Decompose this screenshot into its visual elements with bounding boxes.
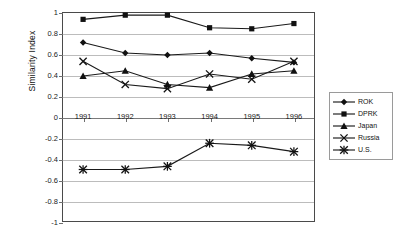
y-axis-tick-label: 0.2	[20, 92, 58, 101]
datapoint-rok-1994	[206, 50, 212, 56]
legend-glyph	[341, 111, 346, 116]
datapoint-dprk-1992	[123, 13, 128, 18]
y-axis-tickmark	[59, 223, 63, 224]
legend-label: Russia	[358, 132, 379, 144]
series-line-rok	[83, 42, 294, 62]
legend-marker-triangle-icon	[332, 120, 356, 132]
y-axis-tick-label: 0.6	[20, 50, 58, 59]
series-line-russia	[83, 61, 294, 88]
datapoint-dprk-1996	[291, 21, 296, 26]
datapoint-u-s-1996	[290, 147, 299, 156]
chart-legend: ROKDPRKJapanRussiaU.S.	[329, 92, 393, 160]
data-series-layer	[62, 12, 315, 222]
y-axis-tick-labels: 10.80.60.40.20-0.2-0.4-0.6-0.8-1	[20, 0, 58, 238]
datapoint-dprk-1994	[207, 25, 212, 30]
legend-marker-asterisk-icon	[332, 144, 356, 156]
legend-label: ROK	[358, 96, 373, 108]
datapoint-u-s-1992	[121, 165, 130, 174]
datapoint-rok-1996	[291, 59, 297, 65]
legend-marker-square-icon	[332, 108, 356, 120]
datapoint-u-s-1994	[205, 139, 214, 148]
legend-item-japan[interactable]: Japan	[332, 120, 390, 132]
datapoint-rok-1993	[164, 52, 170, 58]
y-axis-tick-label: 0.4	[20, 71, 58, 80]
datapoint-u-s-1995	[247, 141, 256, 150]
legend-marker-cross-icon	[332, 132, 356, 144]
datapoint-japan-1992	[122, 67, 129, 74]
legend-marker-diamond-icon	[332, 96, 356, 108]
y-axis-tick-label: 0.8	[20, 29, 58, 38]
legend-label: Japan	[358, 120, 377, 132]
legend-item-dprk[interactable]: DPRK	[332, 108, 390, 120]
datapoint-dprk-1991	[80, 17, 85, 22]
y-axis-tick-label: 1	[20, 8, 58, 17]
datapoint-rok-1995	[249, 55, 255, 61]
series-line-u-s	[83, 143, 294, 169]
datapoint-u-s-1993	[163, 162, 172, 171]
y-axis-tick-label: -0.2	[20, 134, 58, 143]
y-axis-tick-label: -1	[20, 218, 58, 227]
datapoint-russia-1991	[79, 58, 86, 65]
legend-item-russia[interactable]: Russia	[332, 132, 390, 144]
legend-label: DPRK	[358, 108, 377, 120]
y-axis-tick-label: 0	[20, 113, 58, 122]
y-axis-tick-label: -0.6	[20, 176, 58, 185]
series-line-dprk	[83, 15, 294, 29]
chart-container: Similarity Index 10.80.60.40.20-0.2-0.4-…	[0, 0, 395, 238]
legend-item-rok[interactable]: ROK	[332, 96, 390, 108]
datapoint-rok-1992	[122, 50, 128, 56]
datapoint-dprk-1993	[165, 13, 170, 18]
datapoint-dprk-1995	[249, 26, 254, 31]
legend-glyph	[340, 146, 349, 155]
datapoint-u-s-1991	[79, 165, 88, 174]
legend-glyph	[341, 99, 347, 105]
legend-label: U.S.	[358, 144, 372, 156]
legend-item-u-s[interactable]: U.S.	[332, 144, 390, 156]
caption-strip	[8, 229, 268, 237]
datapoint-rok-1991	[80, 39, 86, 45]
y-axis-tick-label: -0.8	[20, 197, 58, 206]
y-axis-tick-label: -0.4	[20, 155, 58, 164]
